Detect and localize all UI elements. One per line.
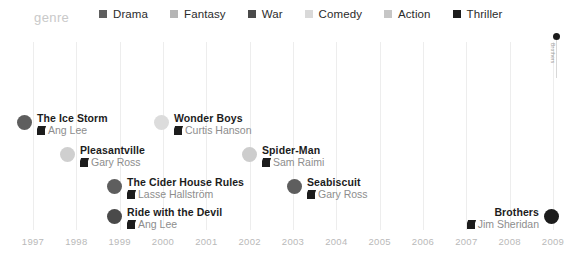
clapperboard-icon (467, 220, 475, 229)
legend-item-thriller[interactable]: Thriller (453, 8, 503, 20)
gridline-2004 (336, 42, 337, 230)
clapperboard-icon (262, 158, 270, 167)
event-text: The Cider House RulesLasse Hallström (127, 176, 244, 201)
timeline-event[interactable]: PleasantvilleGary Ross (60, 144, 145, 169)
legend-item-war[interactable]: War (248, 8, 283, 20)
gridline-2008 (510, 42, 511, 230)
legend-item-label: Action (398, 8, 431, 20)
event-director: Curtis Hanson (174, 124, 252, 137)
event-title: Spider-Man (262, 144, 324, 156)
event-director-label: Gary Ross (91, 156, 141, 169)
axis-tick-2001: 2001 (195, 236, 217, 247)
legend-item-label: War (262, 8, 283, 20)
legend-swatch-icon (384, 10, 392, 18)
plot-area: The Ice StormAng LeePleasantvilleGary Ro… (0, 34, 576, 230)
legend-item-label: Comedy (319, 8, 362, 20)
legend-items: DramaFantasyWarComedyActionThriller (99, 8, 525, 20)
axis-tick-2008: 2008 (498, 236, 520, 247)
axis-tick-1998: 1998 (65, 236, 87, 247)
event-director: Gary Ross (80, 156, 145, 169)
event-marker-icon[interactable] (60, 147, 75, 162)
x-axis: 1997199819992000200120022003200420052006… (0, 236, 576, 256)
event-text: SeabiscuitGary Ross (307, 176, 368, 201)
event-director: Lasse Hallström (127, 188, 244, 201)
event-text: Spider-ManSam Raimi (262, 144, 324, 169)
axis-tick-2006: 2006 (412, 236, 434, 247)
thriller-marker-icon (553, 33, 560, 40)
gridline-1999 (120, 42, 121, 230)
legend-title: genre (34, 10, 69, 25)
timeline-event[interactable]: BrothersJim Sheridan (0, 206, 559, 231)
axis-tick-1997: 1997 (22, 236, 44, 247)
event-marker-icon[interactable] (154, 115, 169, 130)
legend-item-drama[interactable]: Drama (99, 8, 148, 20)
legend-item-comedy[interactable]: Comedy (305, 8, 362, 20)
clapperboard-icon (80, 158, 88, 167)
legend: genre DramaFantasyWarComedyActionThrille… (0, 8, 576, 32)
axis-tick-2009: 2009 (542, 236, 564, 247)
clapperboard-icon (307, 190, 315, 199)
event-title: Brothers (494, 206, 539, 218)
axis-tick-2003: 2003 (282, 236, 304, 247)
event-title: Pleasantville (80, 144, 145, 156)
event-marker-icon[interactable] (287, 179, 302, 194)
event-director: Jim Sheridan (467, 218, 539, 231)
legend-item-action[interactable]: Action (384, 8, 431, 20)
event-title: The Cider House Rules (127, 176, 244, 188)
event-marker-icon[interactable] (17, 115, 32, 130)
gridline-2006 (423, 42, 424, 230)
legend-item-label: Fantasy (184, 8, 226, 20)
event-director-label: Gary Ross (318, 188, 368, 201)
event-title: Wonder Boys (174, 112, 252, 124)
legend-swatch-icon (170, 10, 178, 18)
event-title: Seabiscuit (307, 176, 368, 188)
event-director-label: Ang Lee (48, 124, 87, 137)
event-marker-icon[interactable] (242, 147, 257, 162)
timeline-event[interactable]: The Cider House RulesLasse Hallström (107, 176, 244, 201)
gridline-2005 (380, 42, 381, 230)
gridline-2007 (466, 42, 467, 230)
annotation-stem (556, 40, 557, 78)
legend-swatch-icon (248, 10, 256, 18)
event-title: The Ice Storm (37, 112, 108, 124)
gridline-2003 (293, 42, 294, 230)
timeline-event[interactable]: The Ice StormAng Lee (17, 112, 108, 137)
gridline-2009 (553, 42, 554, 230)
event-marker-icon[interactable] (544, 209, 559, 224)
legend-swatch-icon (99, 10, 107, 18)
axis-tick-1999: 1999 (108, 236, 130, 247)
legend-swatch-icon (453, 10, 461, 18)
event-director-label: Jim Sheridan (478, 218, 539, 231)
event-text: The Ice StormAng Lee (37, 112, 108, 137)
clapperboard-icon (37, 126, 45, 135)
axis-tick-2007: 2007 (455, 236, 477, 247)
timeline-event[interactable]: Wonder BoysCurtis Hanson (154, 112, 252, 137)
event-text: BrothersJim Sheridan (467, 206, 539, 231)
legend-item-label: Drama (113, 8, 148, 20)
legend-swatch-icon (305, 10, 313, 18)
annotation-label: Brothers (550, 43, 556, 64)
timeline-event[interactable]: Spider-ManSam Raimi (242, 144, 324, 169)
legend-item-fantasy[interactable]: Fantasy (170, 8, 226, 20)
axis-tick-2002: 2002 (238, 236, 260, 247)
event-director-label: Lasse Hallström (138, 188, 213, 201)
axis-tick-2000: 2000 (152, 236, 174, 247)
event-director-label: Curtis Hanson (185, 124, 252, 137)
axis-tick-2004: 2004 (325, 236, 347, 247)
event-director: Sam Raimi (262, 156, 324, 169)
timeline-chart: genre DramaFantasyWarComedyActionThrille… (0, 0, 576, 263)
event-director-label: Sam Raimi (273, 156, 324, 169)
timeline-event[interactable]: SeabiscuitGary Ross (287, 176, 368, 201)
event-director: Ang Lee (37, 124, 108, 137)
event-text: PleasantvilleGary Ross (80, 144, 145, 169)
event-marker-icon[interactable] (107, 179, 122, 194)
legend-item-label: Thriller (467, 8, 503, 20)
clapperboard-icon (127, 190, 135, 199)
event-text: Wonder BoysCurtis Hanson (174, 112, 252, 137)
event-director: Gary Ross (307, 188, 368, 201)
clapperboard-icon (174, 126, 182, 135)
axis-tick-2005: 2005 (368, 236, 390, 247)
